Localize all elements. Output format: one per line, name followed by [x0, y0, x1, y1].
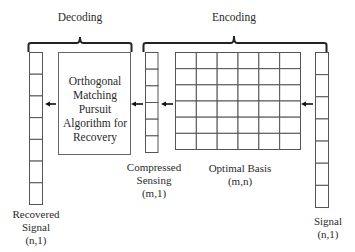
optimal-basis-label: Optimal Basis (m,n) — [200, 162, 280, 188]
recovered-signal-cell — [30, 74, 43, 96]
compressed-sensing-cell — [146, 103, 159, 120]
optimal-basis-cell — [280, 133, 301, 149]
optimal-basis-cell — [196, 53, 217, 69]
optimal-basis-cell — [196, 101, 217, 117]
compressed-sensing-label-line-1: Compressed — [122, 161, 186, 174]
signal-cell — [316, 75, 329, 97]
signal-cell — [316, 119, 329, 141]
optimal-basis-cell — [238, 53, 259, 69]
recovered-signal-dims: (n,1) — [6, 234, 66, 247]
optimal-basis-cell — [238, 101, 259, 117]
compressed-sensing-cell — [146, 119, 159, 136]
optimal-basis-cell — [217, 85, 238, 101]
encoding-label: Encoding — [192, 11, 276, 24]
arrow-recovery-to-recovered — [45, 102, 56, 107]
optimal-basis-cell — [196, 85, 217, 101]
recovered-signal-cell — [30, 183, 43, 205]
arrow-basis-to-cs — [161, 102, 173, 107]
optimal-basis-cell — [217, 53, 238, 69]
optimal-basis-cell — [176, 133, 197, 149]
signal-dims: (n,1) — [305, 228, 351, 241]
optimal-basis-cell — [196, 69, 217, 85]
optimal-basis-cell — [238, 69, 259, 85]
optimal-basis-cell — [280, 85, 301, 101]
decoding-label: Decoding — [38, 11, 122, 24]
optimal-basis-cell — [259, 69, 280, 85]
optimal-basis-cell — [259, 133, 280, 149]
signal-label: Signal (n,1) — [305, 215, 351, 241]
recovered-signal-cell — [30, 139, 43, 161]
recovery-text-line-3: Algorithm for — [56, 116, 134, 130]
optimal-basis-cell — [176, 101, 197, 117]
decoding-bracket — [29, 37, 132, 52]
recovered-signal-vector — [30, 53, 43, 205]
recovered-signal-cell — [30, 96, 43, 118]
optimal-basis-matrix — [176, 53, 301, 150]
recovered-signal-cell — [30, 161, 43, 183]
optimal-basis-cell — [196, 133, 217, 149]
signal-label-text: Signal — [305, 215, 351, 228]
optimal-basis-cell — [259, 117, 280, 133]
optimal-basis-cell — [217, 117, 238, 133]
optimal-basis-cell — [280, 53, 301, 69]
recovered-signal-label: Recovered Signal (n,1) — [6, 208, 66, 247]
compressed-sensing-dims: (m,1) — [122, 187, 186, 200]
recovery-algorithm-text: Orthogonal Matching Pursuit Algorithm fo… — [56, 74, 134, 144]
optimal-basis-cell — [238, 85, 259, 101]
compressed-sensing-label-line-2: Sensing — [122, 174, 186, 187]
signal-vector — [316, 53, 329, 208]
optimal-basis-cell — [217, 69, 238, 85]
signal-cell — [316, 141, 329, 163]
recovered-signal-cell — [30, 53, 43, 75]
optimal-basis-cell — [280, 101, 301, 117]
optimal-basis-cell — [280, 69, 301, 85]
signal-cell — [316, 97, 329, 119]
optimal-basis-cell — [238, 117, 259, 133]
optimal-basis-cell — [259, 53, 280, 69]
optimal-basis-cell — [259, 85, 280, 101]
signal-cell — [316, 53, 329, 75]
compressed-sensing-cell — [146, 69, 159, 86]
optimal-basis-dims: (m,n) — [200, 175, 280, 188]
compressed-sensing-cell — [146, 53, 159, 70]
optimal-basis-label-text: Optimal Basis — [200, 162, 280, 175]
optimal-basis-cell — [259, 101, 280, 117]
signal-cell — [316, 185, 329, 207]
recovered-signal-cell — [30, 118, 43, 140]
compressed-sensing-cell — [146, 136, 159, 153]
optimal-basis-cell — [176, 69, 197, 85]
optimal-basis-cell — [176, 117, 197, 133]
recovery-text-line-4: Recovery — [56, 130, 134, 144]
arrow-signal-to-basis — [301, 102, 313, 107]
optimal-basis-cell — [196, 117, 217, 133]
optimal-basis-cell — [238, 133, 259, 149]
optimal-basis-cell — [176, 85, 197, 101]
encoding-bracket — [144, 36, 327, 52]
compressed-sensing-vector — [146, 53, 159, 153]
optimal-basis-cell — [217, 101, 238, 117]
recovery-text-line-1: Orthogonal — [56, 74, 134, 88]
recovered-signal-label-line-1: Recovered — [6, 208, 66, 221]
compressed-sensing-cell — [146, 86, 159, 103]
optimal-basis-cell — [280, 117, 301, 133]
recovered-signal-label-line-2: Signal — [6, 221, 66, 234]
optimal-basis-cell — [176, 53, 197, 69]
recovery-text-line-2: Matching Pursuit — [56, 88, 134, 116]
optimal-basis-cell — [217, 133, 238, 149]
signal-cell — [316, 163, 329, 185]
compressed-sensing-label: Compressed Sensing (m,1) — [122, 161, 186, 200]
